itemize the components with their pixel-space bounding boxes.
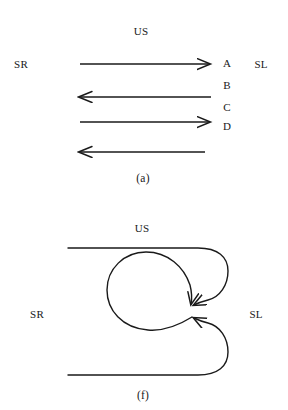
- panel-a-caption: (a): [136, 173, 149, 184]
- panel-f-label-sl: SL: [249, 309, 262, 320]
- panel-a-seq-label-a: A: [223, 58, 231, 69]
- panel-a-seq-label-b: B: [223, 80, 231, 91]
- top-line-loop: [68, 248, 228, 305]
- panel-a-seq-label-c: C: [223, 102, 231, 113]
- figure-root: US SR SL A B C D (a): [0, 0, 288, 410]
- panel-a-seq-label-d: D: [223, 121, 231, 132]
- panel-f-caption: (f): [137, 390, 149, 401]
- panel-f: US SR SL (f): [0, 205, 288, 410]
- panel-f-label-us: US: [135, 223, 149, 234]
- panel-a-label-sl: SL: [254, 59, 267, 70]
- panel-a-label-sr: SR: [14, 59, 28, 70]
- panel-a: US SR SL A B C D (a): [0, 0, 288, 205]
- center-circle: [107, 252, 192, 330]
- panel-f-label-sr: SR: [30, 309, 44, 320]
- panel-a-label-us: US: [134, 26, 148, 37]
- bottom-line-loop: [68, 318, 228, 375]
